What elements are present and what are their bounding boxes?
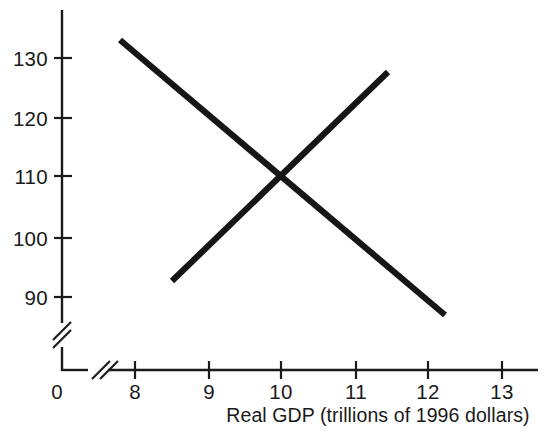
chart-figure: 130 120 110 100 90 8 9 10 11 12 13 0 Rea… [0,0,552,432]
x-tick-label-8: 8 [129,380,141,403]
x-tick-label-12: 12 [416,380,439,403]
x-tick-label-11: 11 [345,380,367,403]
origin-label: 0 [51,380,62,403]
upward-sloping-line [172,72,388,281]
data-lines [120,40,445,315]
x-axis-group [62,361,538,379]
x-tick-label-13: 13 [490,380,513,403]
y-tick-label-100: 100 [13,227,48,250]
y-axis-break-icon [53,322,71,348]
y-tick-labels: 130 120 110 100 90 [13,47,48,309]
y-tick-label-90: 90 [25,286,48,309]
x-axis-title: Real GDP (trillions of 1996 dollars) [226,404,529,426]
y-tick-label-130: 130 [13,47,48,70]
x-tick-labels: 8 9 10 11 12 13 [129,380,514,403]
x-tick-label-10: 10 [269,380,292,403]
chart-canvas: 130 120 110 100 90 8 9 10 11 12 13 0 Rea… [0,0,552,432]
y-axis-group [53,10,71,371]
x-tick-label-9: 9 [203,380,215,403]
y-tick-label-120: 120 [13,107,48,130]
y-tick-label-110: 110 [14,165,48,188]
